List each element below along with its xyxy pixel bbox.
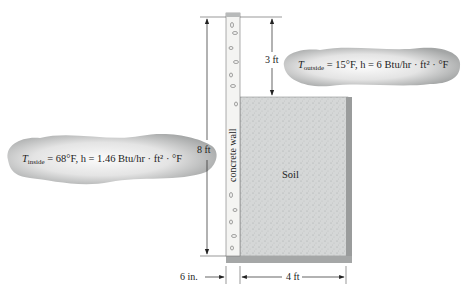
svg-text:6 in.: 6 in. <box>180 271 198 282</box>
heat-transfer-diagram: Tinside = 68°F, h = 1.46 Btu/hr · ft² · … <box>0 0 470 301</box>
dimension-above-soil: 3 ft <box>265 19 279 95</box>
outside-condition-cloud: Toutside = 15°F, h = 6 Btu/hr · ft² · °F <box>284 48 460 87</box>
inside-condition-cloud: Tinside = 68°F, h = 1.46 Btu/hr · ft² · … <box>7 134 216 184</box>
soil-label: Soil <box>282 169 299 180</box>
concrete-wall: concrete wall <box>226 13 240 256</box>
svg-text:8 ft: 8 ft <box>197 144 211 155</box>
dimension-height: 8 ft <box>197 19 211 254</box>
base-strip <box>226 256 352 263</box>
concrete-wall-label: concrete wall <box>227 128 238 182</box>
soil-block: Soil <box>240 97 352 263</box>
svg-text:4 ft: 4 ft <box>286 271 300 282</box>
dimension-wall-thickness: 6 in. <box>180 271 224 282</box>
dimension-soil-width: 4 ft <box>242 271 344 282</box>
svg-text:3 ft: 3 ft <box>265 54 279 65</box>
